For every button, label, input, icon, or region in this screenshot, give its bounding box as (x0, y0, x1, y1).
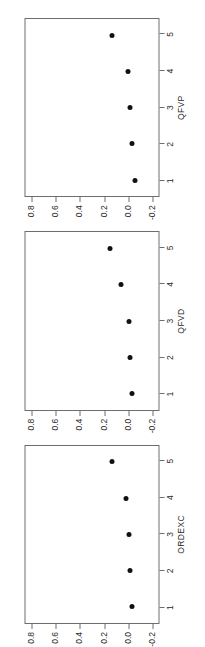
x-tick-mark (159, 393, 164, 394)
y-tick-label: 0.2 (99, 205, 108, 217)
x-tick-label: 3 (165, 319, 174, 324)
x-tick-mark (159, 107, 164, 108)
plot-area (24, 18, 159, 197)
x-tick-mark (159, 320, 164, 321)
scatter-panel: 12345ORDEXC-0.20.00.20.40.60.8 (0, 427, 205, 640)
y-tick-label: 0.2 (99, 419, 108, 431)
x-tick-mark (159, 143, 164, 144)
x-axis-title: QFVP (175, 18, 185, 197)
data-layer (25, 232, 158, 409)
data-point (126, 319, 131, 324)
y-tick-label: 0.6 (51, 632, 60, 644)
y-tick-mark (152, 411, 153, 416)
scatter-panel: 12345QFVD-0.20.00.20.40.60.8 (0, 213, 205, 426)
y-tick-mark (104, 411, 105, 416)
data-point (125, 69, 130, 74)
x-tick-label: 5 (165, 459, 174, 464)
y-tick-label: 0.4 (75, 205, 84, 217)
y-tick-label: 0.4 (75, 419, 84, 431)
y-tick-mark (104, 624, 105, 629)
y-tick-mark (128, 624, 129, 629)
y-tick-label: 0.8 (27, 632, 36, 644)
x-tick-label: 4 (165, 495, 174, 500)
x-tick-mark (159, 570, 164, 571)
data-point (107, 246, 112, 251)
y-tick-mark (128, 197, 129, 202)
y-tick-mark (152, 624, 153, 629)
y-tick-mark (31, 197, 32, 202)
x-axis-title: ORDEXC (175, 445, 185, 624)
y-tick-mark (31, 624, 32, 629)
data-point (132, 178, 137, 183)
x-tick-label: 3 (165, 532, 174, 537)
x-tick-label: 4 (165, 69, 174, 74)
x-tick-label: 1 (165, 179, 174, 184)
y-tick-label: 0.6 (51, 419, 60, 431)
y-tick-label: 0.8 (27, 205, 36, 217)
data-layer (25, 446, 158, 623)
x-tick-mark (159, 70, 164, 71)
y-tick-mark (55, 197, 56, 202)
data-point (126, 532, 131, 537)
data-point (129, 141, 134, 146)
plot-area (24, 231, 159, 410)
y-tick-label: 0.0 (123, 205, 132, 217)
y-tick-label: 0.6 (51, 205, 60, 217)
y-tick-label: 0.8 (27, 419, 36, 431)
x-tick-mark (159, 247, 164, 248)
y-tick-label: 0.2 (99, 632, 108, 644)
data-layer (25, 19, 158, 196)
data-point (123, 496, 128, 501)
data-point (118, 282, 123, 287)
y-tick-mark (128, 411, 129, 416)
y-tick-mark (55, 411, 56, 416)
x-tick-mark (159, 607, 164, 608)
y-tick-mark (79, 411, 80, 416)
y-tick-label: 0.0 (123, 419, 132, 431)
data-point (127, 105, 132, 110)
y-tick-mark (31, 411, 32, 416)
y-tick-label: -0.2 (147, 205, 156, 220)
x-tick-mark (159, 357, 164, 358)
data-point (127, 568, 132, 573)
data-point (129, 604, 134, 609)
x-tick-mark (159, 34, 164, 35)
x-tick-mark (159, 533, 164, 534)
x-tick-label: 3 (165, 105, 174, 110)
x-tick-label: 2 (165, 355, 174, 360)
y-tick-mark (79, 197, 80, 202)
x-tick-label: 4 (165, 282, 174, 287)
x-tick-label: 2 (165, 142, 174, 147)
data-point (129, 391, 134, 396)
x-tick-label: 1 (165, 605, 174, 610)
data-point (127, 355, 132, 360)
x-tick-mark (159, 283, 164, 284)
y-tick-mark (152, 197, 153, 202)
y-tick-label: 0.0 (123, 632, 132, 644)
x-tick-mark (159, 497, 164, 498)
x-tick-label: 5 (165, 32, 174, 37)
data-point (109, 459, 114, 464)
x-tick-label: 2 (165, 569, 174, 574)
y-tick-label: 0.4 (75, 632, 84, 644)
y-tick-mark (104, 197, 105, 202)
data-point (109, 33, 114, 38)
x-tick-label: 5 (165, 245, 174, 250)
x-tick-mark (159, 460, 164, 461)
scatter-panel: 12345QFVP-0.20.00.20.40.60.8 (0, 0, 205, 213)
x-tick-mark (159, 180, 164, 181)
x-axis-title: QFVD (175, 231, 185, 410)
x-tick-label: 1 (165, 392, 174, 397)
y-tick-label: -0.2 (147, 419, 156, 434)
y-tick-mark (79, 624, 80, 629)
y-tick-mark (55, 624, 56, 629)
y-tick-label: -0.2 (147, 632, 156, 647)
plot-area (24, 445, 159, 624)
